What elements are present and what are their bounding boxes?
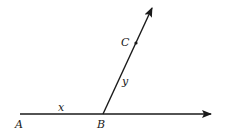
label-y: y	[121, 75, 129, 88]
angle-diagram: C y x A B	[0, 0, 225, 134]
label-C: C	[121, 36, 130, 49]
ray-BC	[103, 8, 152, 114]
label-A: A	[14, 118, 23, 131]
label-B: B	[96, 118, 105, 131]
point-C-dot	[134, 41, 137, 44]
label-x: x	[58, 101, 65, 114]
